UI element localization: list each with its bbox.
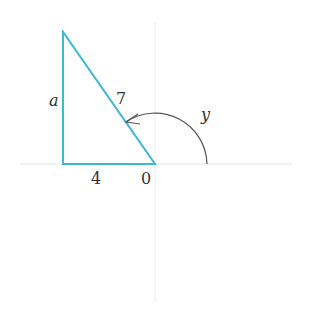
diagram-canvas: a 7 4 0 y xyxy=(0,0,320,326)
diagram-svg: a 7 4 0 y xyxy=(0,0,320,326)
label-side-4: 4 xyxy=(91,169,101,188)
right-triangle xyxy=(63,32,155,164)
label-angle-y: y xyxy=(200,105,211,124)
label-origin: 0 xyxy=(141,169,151,188)
label-side-a: a xyxy=(49,91,59,110)
label-hypotenuse: 7 xyxy=(116,89,126,108)
